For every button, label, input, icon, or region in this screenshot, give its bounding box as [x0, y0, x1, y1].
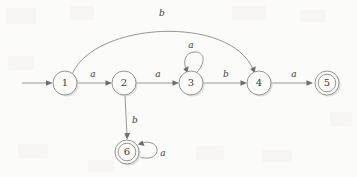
state-node-6[interactable]: 6 — [115, 140, 141, 166]
edge-label-2-6: b — [132, 115, 138, 125]
automaton-graph: a a a b a b — [0, 0, 357, 177]
edge-label-6-6: a — [160, 148, 165, 158]
edge-2-to-3: a — [136, 69, 179, 86]
edge-label-2-3: a — [155, 69, 160, 79]
edge-label-4-5: a — [291, 69, 296, 79]
edge-label-3-4: b — [223, 69, 229, 79]
edge-3-to-3-selfloop: a — [183, 40, 203, 74]
state-node-5[interactable]: 5 — [315, 71, 341, 97]
state-label-5: 5 — [324, 77, 330, 88]
state-node-3[interactable]: 3 — [179, 71, 205, 97]
state-node-4[interactable]: 4 — [247, 71, 273, 97]
state-label-6: 6 — [124, 146, 130, 157]
state-node-2[interactable]: 2 — [112, 71, 138, 97]
edge-label-1-2: a — [90, 69, 95, 79]
edge-6-to-6-selfloop: a — [138, 141, 166, 159]
edge-4-to-5: a — [271, 69, 313, 86]
diagram-canvas: a a a b a b — [0, 0, 357, 177]
state-label-2: 2 — [121, 77, 127, 88]
edge-1-to-2: a — [77, 69, 112, 86]
state-label-4: 4 — [256, 77, 262, 88]
edge-1-to-4-arc: b — [73, 8, 256, 74]
state-label-3: 3 — [188, 77, 194, 88]
edge-label-3-3: a — [188, 40, 193, 50]
state-node-1[interactable]: 1 — [53, 71, 79, 97]
state-label-1: 1 — [62, 77, 68, 88]
edge-label-1-4: b — [159, 8, 165, 18]
edge-2-to-6: b — [124, 95, 138, 140]
edge-start-to-1 — [22, 80, 53, 86]
edge-3-to-4: b — [203, 69, 247, 86]
